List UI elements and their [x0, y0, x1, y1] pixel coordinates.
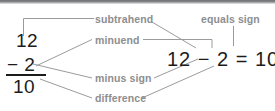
label-difference: difference: [95, 93, 146, 104]
vertical-minuend: 12: [16, 31, 38, 50]
leader-minuend-right: [143, 40, 212, 49]
label-minus-sign: minus sign: [95, 73, 151, 84]
vertical-operator-subtrahend: − 2: [7, 55, 35, 74]
label-equals-sign: equals sign: [201, 14, 260, 25]
horizontal-equation: 12 − 2 = 10: [167, 49, 275, 69]
leader-difference-left: [40, 79, 92, 98]
label-subtrahend: subtrahend: [95, 14, 153, 25]
vertical-difference: 10: [13, 77, 35, 96]
leader-minuend-left: [36, 40, 92, 67]
leader-subtrahend-right: [152, 22, 196, 48]
leader-difference-right: [142, 66, 214, 98]
subtraction-vocabulary-figure: 12 − 2 10 12 − 2 = 10 subtrahend minuend…: [0, 0, 275, 111]
leader-minus-left: [33, 64, 92, 78]
label-minuend: minuend: [95, 35, 139, 46]
